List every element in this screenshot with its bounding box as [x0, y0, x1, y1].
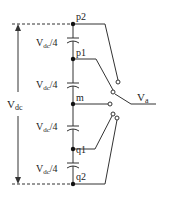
- terminal-q2: [115, 116, 119, 120]
- wire-p1: [73, 59, 113, 90]
- va-label: Va: [137, 91, 149, 105]
- cap-label-4: Vdc/4: [36, 163, 58, 176]
- terminal-p2: [116, 80, 120, 84]
- circuit-diagram: p2 p1 m q1 q2 Vdc/4 Vdc/4 Vdc/4 Vdc/4 Vd…: [0, 0, 169, 199]
- label-q1: q1: [76, 144, 86, 155]
- node-q2: [71, 182, 75, 186]
- terminal-q1: [111, 112, 115, 116]
- arrow-down-head: [15, 177, 21, 184]
- cap-label-1: Vdc/4: [36, 37, 58, 50]
- node-m: [71, 102, 75, 106]
- label-p1: p1: [76, 47, 86, 58]
- label-m: m: [76, 92, 84, 103]
- terminal-m: [108, 102, 112, 106]
- cap-label-2: Vdc/4: [36, 79, 58, 92]
- node-p1: [71, 57, 75, 61]
- node-p2: [71, 22, 75, 26]
- node-q1: [71, 147, 75, 151]
- label-q2: q2: [76, 171, 86, 182]
- arrow-up-head: [15, 24, 21, 31]
- label-p2: p2: [76, 11, 86, 22]
- cap-label-3: Vdc/4: [36, 121, 58, 134]
- switch-pole: [115, 94, 156, 104]
- terminal-p1: [111, 90, 115, 94]
- vdc-label: Vdc: [7, 98, 23, 112]
